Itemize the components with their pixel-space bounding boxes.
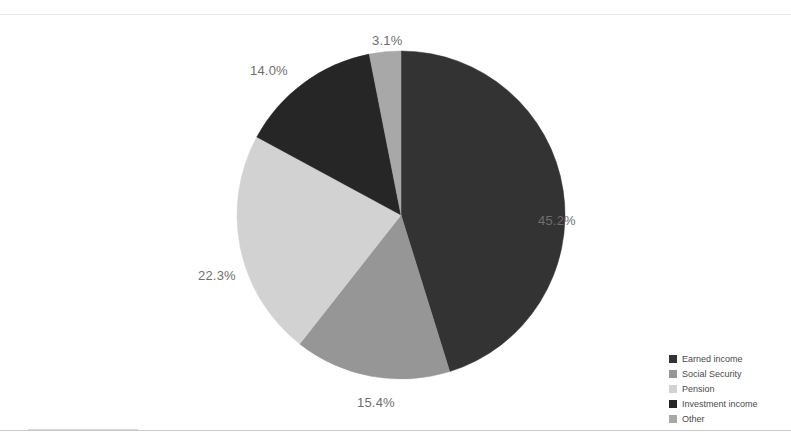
pie-label-other: 3.1% <box>372 33 402 48</box>
legend-item-label: Investment income <box>682 399 758 409</box>
chart-page: 45.2% 15.4% 22.3% 14.0% 3.1% Earned inco… <box>0 0 791 439</box>
top-divider <box>0 14 791 15</box>
legend-item-label: Pension <box>682 384 715 394</box>
legend-swatch-icon <box>669 400 677 408</box>
legend-item-investment-income[interactable]: Investment income <box>669 397 787 410</box>
pie-label-earned-income: 45.2% <box>538 213 576 228</box>
legend-swatch-icon <box>669 415 677 423</box>
chart-legend: Earned income Social Security Pension In… <box>669 352 787 427</box>
legend-item-label: Earned income <box>682 354 743 364</box>
pie-slices-group <box>237 51 565 379</box>
legend-item-other[interactable]: Other <box>669 412 787 425</box>
bottom-divider-stub <box>28 429 138 430</box>
legend-item-earned-income[interactable]: Earned income <box>669 352 787 365</box>
legend-item-label: Other <box>682 414 705 424</box>
legend-item-social-security[interactable]: Social Security <box>669 367 787 380</box>
legend-item-pension[interactable]: Pension <box>669 382 787 395</box>
pie-label-social-security: 15.4% <box>357 395 395 410</box>
pie-label-pension: 22.3% <box>198 268 236 283</box>
pie-label-investment-income: 14.0% <box>250 63 288 78</box>
legend-item-label: Social Security <box>682 369 742 379</box>
legend-swatch-icon <box>669 370 677 378</box>
bottom-divider <box>0 430 791 431</box>
legend-swatch-icon <box>669 385 677 393</box>
legend-swatch-icon <box>669 355 677 363</box>
